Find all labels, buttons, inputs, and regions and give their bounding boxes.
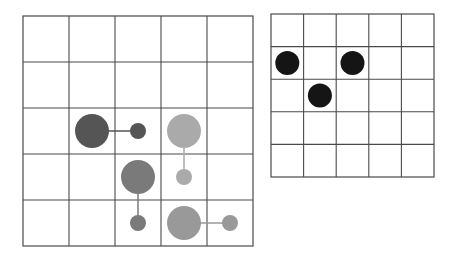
large-circle xyxy=(167,206,201,240)
mid-pair xyxy=(121,160,155,231)
medium-light-pair xyxy=(167,206,238,240)
right-grid xyxy=(271,14,434,177)
light-pair xyxy=(167,114,201,185)
small-circle xyxy=(130,123,146,139)
black-dot xyxy=(275,51,299,75)
large-circle xyxy=(167,114,201,148)
black-dot xyxy=(341,51,365,75)
small-circle xyxy=(130,215,146,231)
small-circle xyxy=(222,215,238,231)
dark-pair xyxy=(75,114,146,148)
grid-diagram xyxy=(0,0,453,257)
left-grid xyxy=(23,16,253,246)
large-circle xyxy=(121,160,155,194)
small-circle xyxy=(176,169,192,185)
large-circle xyxy=(75,114,109,148)
right-grid-border xyxy=(271,14,434,177)
black-dot xyxy=(308,84,332,108)
